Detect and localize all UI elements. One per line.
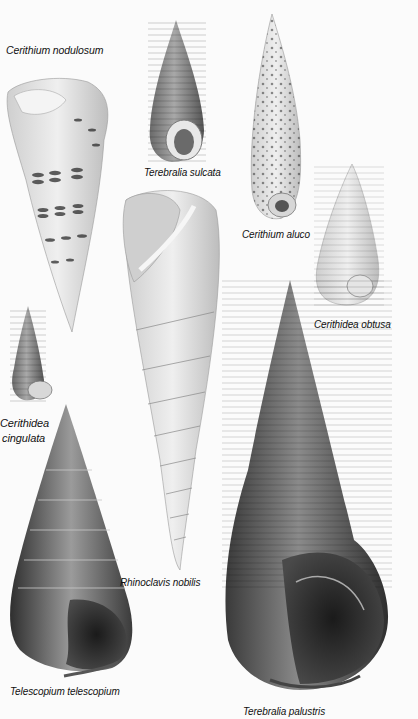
shell-illustrations <box>0 0 418 719</box>
shell-cerithium-aluco <box>251 14 300 219</box>
shell-plate: Cerithium nodulosum Terebralia sulcata C… <box>0 0 418 719</box>
label-telescopium-telescopium: Telescopium telescopium <box>10 686 120 697</box>
label-cerithium-aluco: Cerithium aluco <box>242 229 310 240</box>
label-rhinoclavis-nobilis: Rhinoclavis nobilis <box>120 577 200 588</box>
shell-telescopium-telescopium <box>10 404 132 676</box>
label-terebralia-palustris: Terebralia palustris <box>243 706 325 717</box>
label-cerithium-nodulosum: Cerithium nodulosum <box>6 44 103 56</box>
shell-terebralia-sulcata <box>148 20 206 165</box>
shell-cerithidea-cingulata <box>10 306 52 402</box>
label-terebralia-sulcata: Terebralia sulcata <box>144 167 221 178</box>
shell-cerithium-nodulosum <box>7 78 108 332</box>
label-cerithidea-cingulata-line1: Cerithidea <box>0 417 49 429</box>
label-cerithidea-obtusa: Cerithidea obtusa <box>314 319 391 330</box>
label-cerithidea-cingulata-line2: cingulata <box>2 432 45 444</box>
shell-terebralia-palustris <box>222 280 392 690</box>
shell-rhinoclavis-nobilis <box>123 191 219 570</box>
